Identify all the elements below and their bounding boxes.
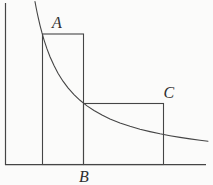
label-c: C [164, 84, 175, 101]
math-figure: A B C [0, 0, 213, 185]
figure-background [0, 0, 213, 185]
label-a: A [51, 14, 62, 31]
label-b: B [79, 168, 89, 185]
figure-canvas: A B C [0, 0, 213, 185]
